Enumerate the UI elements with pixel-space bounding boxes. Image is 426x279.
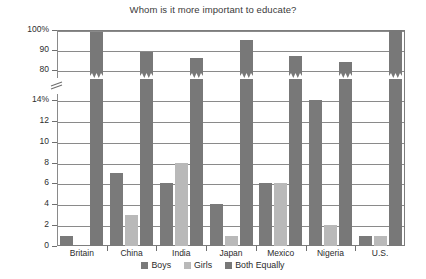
y-tick-mark: [52, 121, 57, 122]
bar-break-icon: [389, 72, 402, 79]
x-tick-label-us: U.S.: [355, 248, 405, 258]
bar-break-icon: [339, 72, 352, 79]
y-tick-label: 80: [0, 64, 49, 74]
bar-break-icon: [90, 72, 103, 79]
x-tick-label-india: India: [156, 248, 206, 258]
bar-break-icon: [289, 72, 302, 79]
y-tick-mark: [52, 225, 57, 226]
bar-boys-mexico: [259, 183, 272, 246]
legend-label: Boys: [151, 260, 171, 270]
bar-girls-japan: [225, 236, 238, 246]
bar-boys-britain: [60, 236, 73, 246]
chart-container: Whom is it more important to educate? 02…: [0, 0, 426, 279]
y-tick-label: 90: [0, 44, 49, 54]
legend-swatch-icon: [225, 262, 232, 269]
bar-boys-japan: [210, 204, 223, 246]
bar-both-equally-china: [140, 52, 153, 246]
gridline: [58, 101, 404, 102]
bar-girls-china: [125, 215, 138, 246]
bar-girls-india: [175, 163, 188, 246]
bar-girls-nigeria: [324, 225, 337, 246]
legend-item-girls[interactable]: Girls: [184, 260, 212, 270]
y-tick-label: 6: [0, 177, 49, 187]
y-tick-mark: [52, 183, 57, 184]
bar-break-icon: [190, 72, 203, 79]
gridline: [58, 51, 404, 52]
y-tick-label: 8: [0, 157, 49, 167]
y-tick-label: 100%: [0, 24, 49, 34]
y-tick-label: 4: [0, 198, 49, 208]
x-tick-mark: [156, 246, 157, 251]
y-tick-label: 0: [0, 240, 49, 250]
bar-both-equally-japan: [240, 40, 253, 246]
x-tick-mark: [107, 246, 108, 251]
y-tick-mark: [52, 204, 57, 205]
y-tick-label: 12: [0, 115, 49, 125]
legend-label: Both Equally: [235, 260, 284, 270]
x-tick-mark: [206, 246, 207, 251]
y-axis-line: [57, 30, 58, 246]
y-tick-label: 2: [0, 219, 49, 229]
chart-legend: BoysGirlsBoth Equally: [0, 260, 426, 270]
gridline: [58, 143, 404, 144]
x-tick-mark: [256, 246, 257, 251]
x-tick-label-japan: Japan: [206, 248, 256, 258]
y-tick-mark: [52, 50, 57, 51]
x-tick-mark: [306, 246, 307, 251]
bar-boys-us: [359, 236, 372, 246]
legend-swatch-icon: [141, 262, 148, 269]
bar-both-equally-britain: [90, 32, 103, 246]
y-tick-mark: [52, 70, 57, 71]
y-tick-mark: [52, 30, 57, 31]
chart-title: Whom is it more important to educate?: [0, 4, 426, 15]
x-tick-label-britain: Britain: [57, 248, 107, 258]
bar-both-equally-india: [190, 58, 203, 246]
bar-break-icon: [140, 72, 153, 79]
x-tick-label-nigeria: Nigeria: [306, 248, 356, 258]
bar-break-icon: [240, 72, 253, 79]
y-tick-mark: [52, 142, 57, 143]
y-tick-label: 10: [0, 136, 49, 146]
gridline: [58, 122, 404, 123]
bar-boys-china: [110, 173, 123, 246]
x-tick-label-china: China: [107, 248, 157, 258]
y-tick-mark: [52, 163, 57, 164]
legend-item-both-equally[interactable]: Both Equally: [225, 260, 284, 270]
x-tick-label-mexico: Mexico: [256, 248, 306, 258]
bar-girls-us: [374, 236, 387, 246]
bar-boys-india: [160, 183, 173, 246]
gridline: [58, 31, 404, 32]
y-tick-mark: [52, 246, 57, 247]
legend-swatch-icon: [184, 262, 191, 269]
bar-both-equally-mexico: [289, 56, 302, 246]
y-axis-break-icon: [48, 78, 66, 94]
legend-item-boys[interactable]: Boys: [141, 260, 171, 270]
gridline: [58, 71, 404, 72]
bar-boys-nigeria: [309, 100, 322, 246]
y-tick-mark: [52, 100, 57, 101]
bar-both-equally-nigeria: [339, 62, 352, 246]
bar-both-equally-us: [389, 30, 402, 246]
y-tick-label: 14%: [0, 94, 49, 104]
bar-girls-mexico: [274, 183, 287, 246]
legend-label: Girls: [194, 260, 212, 270]
gridline: [58, 164, 404, 165]
x-tick-mark: [355, 246, 356, 251]
